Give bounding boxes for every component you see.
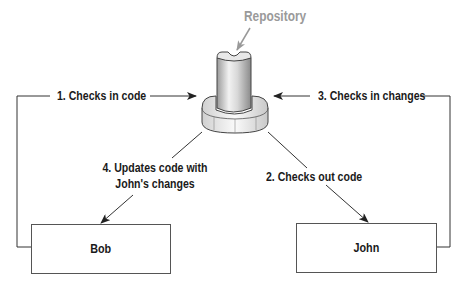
step4-label: 4. Updates code with John's changes <box>90 161 220 191</box>
line-step4-upper <box>172 132 202 158</box>
actor-box-bob: Bob <box>31 224 171 274</box>
repository-icon <box>202 52 268 133</box>
line-step2-upper <box>268 132 307 168</box>
step4-label-line2: John's changes <box>98 177 212 191</box>
repository-label: Repository <box>244 8 306 24</box>
step4-label-line1: 4. Updates code with <box>98 161 212 175</box>
repository-pointer-arrow <box>237 28 250 50</box>
arrow-step2 <box>326 185 368 222</box>
step1-label: 1. Checks in code <box>57 89 146 103</box>
actor-name-john: John <box>354 241 380 255</box>
arrow-step4 <box>101 195 133 223</box>
step2-label: 2. Checks out code <box>266 170 362 184</box>
actor-box-john: John <box>296 223 437 273</box>
step3-label: 3. Checks in changes <box>318 89 425 103</box>
actor-name-bob: Bob <box>90 242 111 256</box>
